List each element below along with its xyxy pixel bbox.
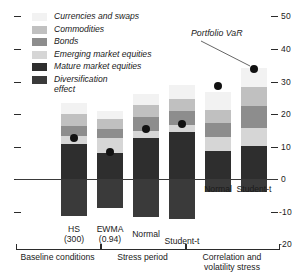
- category-label-corrvol-student-t: Student-t: [229, 184, 279, 194]
- group-bracket-correlation-volatility-stress: [186, 244, 280, 250]
- group-label-stress-period: Stress period: [101, 252, 184, 263]
- group-label-correlation-volatility-stress-line2: volatility stress: [186, 262, 278, 273]
- group-bracket-baseline-conditions: [16, 244, 101, 250]
- group-label-baseline-conditions: Baseline conditions: [16, 252, 99, 263]
- group-bracket-stress-period: [101, 244, 186, 250]
- var-stacked-bar-chart: 50 40 30 20 10 0 -10 -20: [0, 0, 301, 278]
- group-label-correlation-volatility-stress-line1: Correlation and: [186, 252, 278, 263]
